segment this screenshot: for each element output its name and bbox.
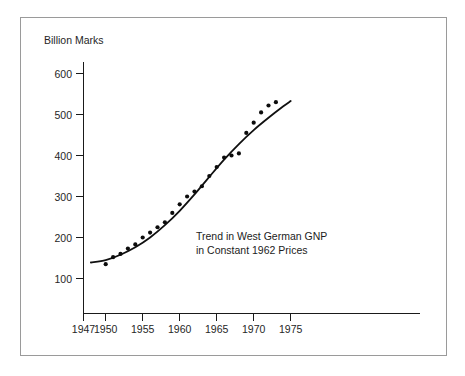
data-point <box>244 131 248 135</box>
data-point <box>215 165 219 169</box>
data-point <box>178 202 182 206</box>
y-tick-label: 300 <box>54 191 72 203</box>
x-tick-label: 1960 <box>168 323 192 335</box>
data-point <box>274 100 278 104</box>
y-tick-label: 600 <box>54 68 72 80</box>
data-point <box>192 189 196 193</box>
x-tick-label: 1970 <box>242 323 266 335</box>
x-tick-label: 1955 <box>131 323 155 335</box>
data-point <box>148 230 152 234</box>
y-tick-label: 400 <box>54 150 72 162</box>
data-point <box>266 103 270 107</box>
data-point <box>104 262 108 266</box>
chart-annotation-line-2: in Constant 1962 Prices <box>196 244 307 256</box>
data-point <box>237 151 241 155</box>
data-point <box>111 255 115 259</box>
x-axis-ticks: 1947 1950 1955 1960 1965 1970 1975 <box>72 314 303 336</box>
data-point <box>126 246 130 250</box>
chart-annotation-line-1: Trend in West German GNP <box>196 230 327 242</box>
y-axis-title: Billion Marks <box>44 34 104 46</box>
chart-canvas: Billion Marks 600 500 400 300 200 100 19… <box>0 0 465 376</box>
data-point <box>252 121 256 125</box>
data-point <box>229 153 233 157</box>
data-point <box>133 242 137 246</box>
x-tick-label: 1975 <box>279 323 303 335</box>
data-point <box>185 194 189 198</box>
data-point <box>222 155 226 159</box>
y-tick-label: 100 <box>54 273 72 285</box>
data-point <box>259 110 263 114</box>
y-tick-label: 200 <box>54 232 72 244</box>
y-axis-ticks: 600 500 400 300 200 100 <box>54 68 83 285</box>
data-point <box>170 211 174 215</box>
x-tick-label: 1965 <box>205 323 229 335</box>
data-point <box>141 235 145 239</box>
data-point <box>200 184 204 188</box>
data-point <box>163 220 167 224</box>
x-tick-label: 1950 <box>94 323 118 335</box>
data-point <box>155 225 159 229</box>
data-point <box>207 174 211 178</box>
y-tick-label: 500 <box>54 109 72 121</box>
data-point <box>118 252 122 256</box>
x-tick-label: 1947 <box>72 323 96 335</box>
